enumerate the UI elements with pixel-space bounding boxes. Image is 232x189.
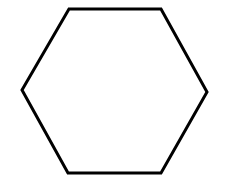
- hexagon-diagram: [0, 0, 232, 189]
- diagram-canvas: [0, 0, 232, 189]
- hexagon-shape: [22, 9, 207, 173]
